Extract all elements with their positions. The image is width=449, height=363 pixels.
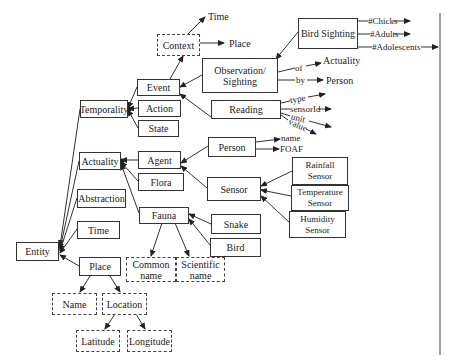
node-agent: Agent: [138, 151, 181, 169]
node-sensor: Sensor: [207, 177, 261, 201]
label-adults: #Adults: [370, 29, 399, 40]
node-label: Rainfall Sensor: [293, 160, 347, 182]
node-bird-sighting: Bird Sighting: [298, 18, 358, 49]
node-label: Longitude: [129, 336, 170, 347]
node-label: Entity: [25, 246, 49, 257]
node-name: Name: [52, 293, 97, 315]
node-label: Place: [89, 261, 111, 272]
node-label: Context: [163, 40, 195, 51]
node-humidity-sensor: Humidity Sensor: [289, 211, 346, 238]
node-label: Latitude: [81, 336, 114, 347]
node-longitude: Longitude: [127, 330, 172, 352]
node-label: Bird Sighting: [301, 28, 355, 39]
node-label: Bird: [227, 242, 245, 253]
node-label: Time: [88, 225, 109, 236]
label-person-name: name: [281, 133, 301, 144]
node-label: Fauna: [152, 210, 176, 221]
node-entity: Entity: [16, 242, 59, 261]
node-person: Person: [208, 137, 256, 157]
node-common-name: Common name: [126, 257, 176, 282]
node-label: State: [149, 123, 169, 134]
node-context: Context: [157, 34, 200, 56]
node-label: Reading: [229, 104, 262, 115]
node-label: Agent: [147, 155, 171, 166]
label-by: by: [296, 75, 305, 86]
label-foaf: FOAF: [280, 144, 303, 155]
node-label: Observation/ Sighting: [203, 65, 277, 87]
node-fauna: Fauna: [139, 207, 189, 224]
node-label: Common name: [127, 259, 175, 281]
node-bird: Bird: [210, 238, 261, 257]
node-label: Abstraction: [78, 193, 125, 204]
label-adolescents: #Adolescents: [372, 42, 421, 53]
node-rainfall-sensor: Rainfall Sensor: [292, 157, 348, 185]
node-snake: Snake: [211, 214, 261, 234]
label-of: of: [295, 63, 303, 74]
label-context-place: Place: [229, 38, 251, 49]
node-label: Person: [218, 142, 245, 153]
node-state: State: [138, 120, 179, 137]
label-of-actuality: Actuality: [323, 55, 360, 66]
node-label: Action: [146, 103, 173, 114]
ontology-diagram: Entity Temporality Actuality Abstraction…: [0, 0, 449, 363]
node-abstraction: Abstraction: [77, 189, 126, 208]
node-label: Flora: [150, 177, 171, 188]
node-time: Time: [77, 221, 120, 239]
label-by-person: Person: [326, 75, 353, 86]
node-label: Snake: [224, 219, 248, 230]
node-label: Name: [63, 299, 87, 310]
node-label: Humidity Sensor: [290, 214, 345, 236]
node-label: Actuality: [81, 156, 118, 167]
node-label: Location: [107, 299, 143, 310]
node-temperature-sensor: Temperature Sensor: [291, 185, 349, 211]
node-label: Temporality: [80, 104, 129, 115]
node-location: Location: [102, 293, 147, 315]
node-action: Action: [138, 100, 181, 117]
label-chicks: #Chicks: [368, 16, 398, 27]
node-latitude: Latitude: [76, 330, 120, 352]
node-temporality: Temporality: [80, 100, 128, 118]
node-flora: Flora: [138, 173, 184, 191]
node-label: Temperature Sensor: [292, 187, 348, 209]
node-scientific-name: Scientific name: [176, 257, 225, 282]
node-label: Event: [147, 82, 170, 93]
label-context-time: Time: [208, 11, 229, 22]
node-label: Sensor: [220, 184, 247, 195]
node-event: Event: [137, 79, 180, 96]
node-reading: Reading: [211, 100, 281, 119]
node-observation-sighting: Observation/ Sighting: [202, 58, 278, 93]
node-label: Scientific name: [177, 259, 224, 281]
node-actuality: Actuality: [79, 152, 121, 170]
node-place: Place: [79, 257, 121, 276]
